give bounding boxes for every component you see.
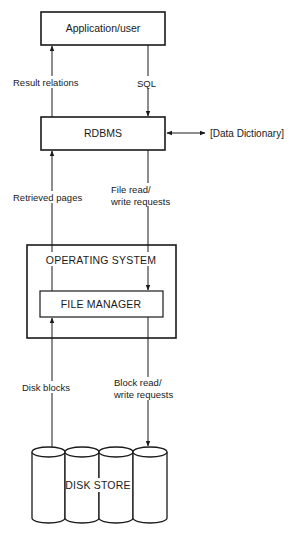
sql-label: SQL bbox=[137, 78, 156, 89]
operating-system-label: OPERATING SYSTEM bbox=[46, 254, 156, 266]
disk-blocks-label: Disk blocks bbox=[22, 382, 70, 393]
application-user-box: Application/user bbox=[41, 12, 165, 45]
result-relations-label: Result relations bbox=[13, 77, 79, 88]
file-manager-box: FILE MANAGER bbox=[40, 291, 163, 317]
block-requests-arrow: Block read/ write requests bbox=[113, 317, 185, 446]
file-manager-label: FILE MANAGER bbox=[61, 298, 142, 310]
retrieved-pages-arrow: Retrieved pages bbox=[12, 151, 88, 291]
file-requests-label-line1: File read/ bbox=[111, 184, 151, 195]
file-requests-arrow: File read/ write requests bbox=[110, 150, 182, 290]
rdbms-box: RDBMS bbox=[41, 117, 165, 150]
block-requests-label-line2: write requests bbox=[113, 389, 173, 400]
rdbms-label: RDBMS bbox=[84, 127, 122, 139]
application-user-label: Application/user bbox=[66, 22, 141, 34]
disk-cylinder-icon bbox=[133, 447, 167, 523]
retrieved-pages-label: Retrieved pages bbox=[13, 192, 82, 203]
disk-store-label: DISK STORE bbox=[65, 479, 130, 491]
disk-store: DISK STORE bbox=[32, 447, 167, 523]
result-relations-arrow: Result relations bbox=[12, 46, 86, 117]
architecture-diagram: Application/user Result relations SQL RD… bbox=[0, 0, 296, 534]
sql-arrow: SQL bbox=[137, 45, 159, 116]
block-requests-label-line1: Block read/ bbox=[114, 377, 162, 388]
file-requests-label-line2: write requests bbox=[110, 196, 170, 207]
data-dictionary-link: [Data Dictionary] bbox=[167, 128, 284, 139]
disk-cylinder-icon bbox=[32, 447, 65, 523]
data-dictionary-label: [Data Dictionary] bbox=[210, 128, 284, 139]
